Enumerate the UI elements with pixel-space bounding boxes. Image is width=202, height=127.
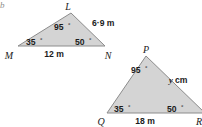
vertex-label-M: M [4, 50, 14, 61]
svg-text:35: 35 [114, 104, 124, 114]
svg-text:50: 50 [75, 37, 85, 47]
vertex-label-Q: Q [97, 116, 105, 127]
svg-text:95: 95 [131, 65, 141, 75]
figure-canvas: L M N 95 ° 35 ° 50 ° 6·9 m 12 m P Q R 95… [0, 0, 202, 127]
svg-text:cm: cm [175, 75, 188, 85]
svg-text:50: 50 [167, 104, 177, 114]
vertex-label-R: R [195, 116, 202, 127]
side-label-MN: 12 m [44, 49, 64, 59]
side-label-LN: 6·9 m [92, 18, 115, 28]
vertex-label-N: N [104, 50, 113, 61]
side-label-PR: y cm [168, 75, 188, 85]
svg-text:95: 95 [54, 22, 64, 32]
svg-text:y: y [168, 75, 173, 85]
side-label-QR: 18 m [135, 116, 155, 126]
vertex-label-L: L [64, 1, 71, 12]
vertex-label-P: P [142, 44, 149, 55]
corner-fragment-label: b [0, 0, 5, 10]
svg-text:35: 35 [26, 37, 36, 47]
two-similar-triangles-diagram: L M N 95 ° 35 ° 50 ° 6·9 m 12 m P Q R 95… [0, 0, 202, 127]
